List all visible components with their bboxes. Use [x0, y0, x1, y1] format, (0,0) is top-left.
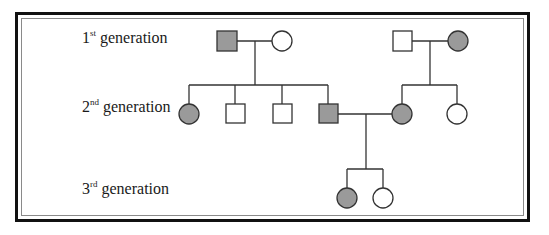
unaffected-female-circle-icon: [272, 31, 292, 51]
affected-female-circle-icon: [392, 104, 412, 124]
unaffected-male-square-icon: [273, 104, 292, 123]
pedigree-diagram: [0, 0, 549, 235]
affected-female-circle-icon: [448, 31, 468, 51]
affected-female-circle-icon: [337, 188, 357, 208]
unaffected-male-square-icon: [393, 31, 412, 51]
affected-female-circle-icon: [179, 104, 199, 124]
unaffected-female-circle-icon: [373, 188, 393, 208]
unaffected-female-circle-icon: [447, 104, 467, 124]
affected-male-square-icon: [217, 31, 237, 51]
unaffected-male-square-icon: [226, 104, 245, 123]
affected-male-square-icon: [319, 104, 338, 123]
